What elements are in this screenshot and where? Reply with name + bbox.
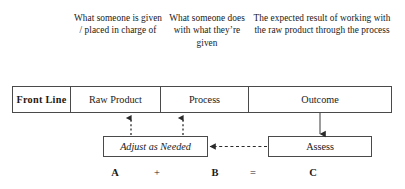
equation-term-c: C bbox=[303, 167, 323, 178]
equation-term-b: B bbox=[205, 167, 225, 178]
caption-outcome: The expected result of working with the … bbox=[252, 12, 392, 37]
caption-process: What someone does with what they’re give… bbox=[166, 12, 248, 49]
box-assess: Assess bbox=[268, 136, 372, 157]
equation-term-a: A bbox=[105, 167, 125, 178]
equation-operator-plus: + bbox=[147, 167, 167, 178]
equation-operator-equals: = bbox=[243, 167, 263, 178]
diagram-canvas: What someone is given / placed in charge… bbox=[0, 0, 405, 189]
table-cell-raw-product: Raw Product bbox=[71, 87, 161, 112]
front-line-table: Front Line Raw Product Process Outcome bbox=[12, 86, 392, 113]
caption-raw-product: What someone is given / placed in charge… bbox=[72, 12, 164, 37]
table-cell-front-line: Front Line bbox=[13, 87, 71, 112]
table-cell-outcome: Outcome bbox=[249, 87, 391, 112]
table-cell-process: Process bbox=[161, 87, 249, 112]
box-adjust-as-needed: Adjust as Needed bbox=[103, 136, 208, 157]
